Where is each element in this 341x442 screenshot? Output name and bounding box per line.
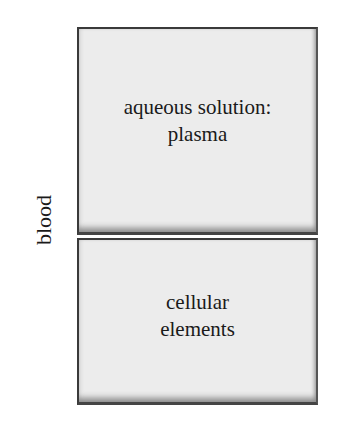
cellular-line-2: elements (160, 316, 235, 343)
cellular-elements-compartment: cellular elements (77, 238, 318, 405)
plasma-text: aqueous solution: plasma (124, 94, 272, 148)
cellular-line-1: cellular (160, 289, 235, 316)
cellular-elements-text: cellular elements (160, 289, 235, 343)
plasma-compartment: aqueous solution: plasma (77, 27, 318, 235)
plasma-line-2: plasma (124, 121, 272, 148)
blood-label: blood (24, 190, 64, 250)
plasma-line-1: aqueous solution: (124, 94, 272, 121)
